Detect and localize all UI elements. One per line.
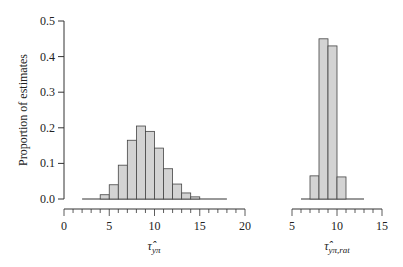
y-axis: 0.00.10.20.30.40.5 — [40, 14, 64, 206]
x-tick-label: 5 — [106, 219, 112, 233]
histogram-bar — [337, 177, 346, 199]
x-tick-label: 20 — [239, 219, 251, 233]
histogram-figure: 0.00.10.20.30.40.5 Proportion of estimat… — [0, 0, 403, 267]
x-axis-label: τ̂yπ — [148, 239, 161, 255]
histogram-bar — [127, 140, 136, 199]
histogram-panel-right: 51015τ̂yπ,rat — [289, 39, 388, 255]
y-axis-label: Proportion of estimates — [16, 54, 30, 166]
y-tick-label: 0.0 — [40, 192, 55, 206]
histogram-bar — [310, 176, 319, 199]
x-tick-label: 15 — [194, 219, 206, 233]
histogram-bar — [145, 131, 154, 199]
histogram-bar — [155, 148, 164, 199]
y-tick-label: 0.5 — [40, 14, 55, 28]
x-tick-label: 5 — [289, 219, 295, 233]
x-axis-label: τ̂yπ,rat — [324, 239, 350, 255]
histogram-bar — [328, 46, 337, 199]
x-tick-label: 10 — [331, 219, 343, 233]
histogram-bar — [109, 185, 118, 199]
y-tick-label: 0.1 — [40, 156, 55, 170]
x-tick-label: 0 — [61, 219, 67, 233]
histogram-bar — [136, 126, 145, 199]
y-tick-label: 0.4 — [40, 50, 55, 64]
histogram-bar — [100, 195, 109, 199]
histogram-bar — [319, 39, 328, 199]
y-tick-label: 0.3 — [40, 85, 55, 99]
histogram-panel-left: 05101520τ̂yπ — [61, 126, 251, 255]
x-tick-label: 15 — [376, 219, 388, 233]
histogram-bar — [191, 197, 200, 199]
histogram-bar — [164, 169, 173, 199]
x-tick-label: 10 — [149, 219, 161, 233]
histogram-bar — [182, 193, 191, 199]
y-tick-label: 0.2 — [40, 121, 55, 135]
histogram-bar — [118, 165, 127, 199]
histogram-bar — [173, 184, 182, 199]
